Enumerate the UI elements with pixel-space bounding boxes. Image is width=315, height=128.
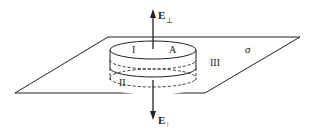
diagram-canvas: E ⊥ E | I A III II σ [0, 0, 315, 128]
label-e-par: E [158, 114, 165, 126]
label-bottom-face: II [119, 77, 126, 88]
label-e-par-sub: | [167, 120, 168, 128]
arrowhead-up-icon [150, 9, 156, 18]
label-top-face: I [132, 44, 135, 55]
label-e-perp: E [158, 9, 165, 21]
label-sigma: σ [245, 43, 251, 55]
arrowhead-down-icon [150, 111, 156, 120]
label-area: A [169, 44, 177, 55]
label-side: III [210, 57, 220, 68]
pillbox-diagram: E ⊥ E | I A III II σ [0, 0, 315, 128]
label-e-perp-sub: ⊥ [166, 16, 173, 25]
